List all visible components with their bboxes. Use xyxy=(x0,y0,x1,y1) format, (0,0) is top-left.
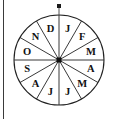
sector-label-2: M xyxy=(86,46,96,57)
sector-label-8: S xyxy=(24,63,30,74)
sector-label-5: J xyxy=(65,86,70,97)
sector-label-1: F xyxy=(79,31,85,42)
month-spinner-wheel[interactable]: JFMAMJJASOND xyxy=(0,0,114,119)
sector-label-0: J xyxy=(65,23,70,34)
sector-label-11: D xyxy=(47,23,55,34)
sector-label-9: O xyxy=(23,46,31,57)
sector-label-3: A xyxy=(87,63,95,74)
sector-label-6: J xyxy=(48,86,53,97)
pointer-dot-icon xyxy=(57,4,61,8)
sector-label-7: A xyxy=(32,78,40,89)
spinner-figure: JFMAMJJASOND xyxy=(0,0,114,119)
center-hub-icon xyxy=(57,58,62,63)
sector-label-10: N xyxy=(32,31,40,42)
sector-label-4: M xyxy=(77,78,87,89)
